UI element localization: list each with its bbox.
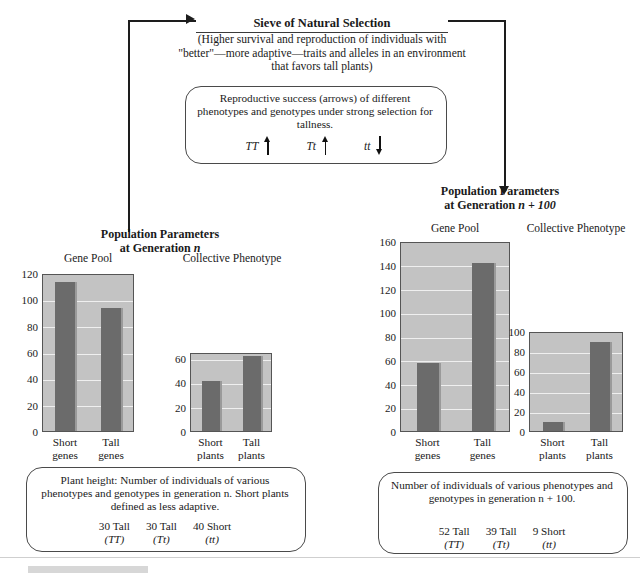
sieve-title: Sieve of Natural Selection [196,16,448,33]
right-panel-title-line2-prefix: at Generation [444,198,518,212]
gridline [401,314,509,315]
y-axis-tick-label: 100 [499,326,525,338]
y-axis-tick-label: 60 [12,347,38,359]
gridline [401,266,509,267]
y-axis-tick-label: 80 [370,331,396,343]
gridline [530,393,622,394]
left-panel-title-line2-prefix: at Generation [120,241,194,255]
gridline [530,353,622,354]
genotype-Tt: Tt [306,136,330,155]
genotype-count-value: 9 Short [533,525,566,538]
y-axis-tick-label: 40 [499,386,525,398]
genotype-tt: tt [364,136,384,155]
left-panel-title: Population Parameters at Generation n [60,228,260,255]
y-axis-tick-label: 100 [370,307,396,319]
y-axis-tick-label: 120 [12,268,38,280]
arrow-down-icon [375,136,384,155]
x-axis-tick-label: Shortplants [529,436,576,461]
y-axis-tick-label: 20 [12,400,38,412]
flow-line-left-vertical [128,20,130,232]
y-axis-tick-label: 20 [499,406,525,418]
genotype-count-genotype: (tt) [193,533,231,546]
bar [590,342,612,431]
y-axis-tick-label: 80 [12,321,38,333]
y-axis-tick-label: 120 [370,284,396,296]
genotype-TT: TT [246,136,273,155]
y-axis-tick-label: 60 [499,366,525,378]
genotype-count-value: 39 Tall [486,525,517,538]
reproductive-success-text: Reproductive success (arrows) of differe… [193,92,437,130]
gridline [43,380,133,381]
genotype-count: 39 Tall(Tt) [486,525,517,550]
left-panel-title-line1: Population Parameters [101,227,219,241]
genotype-count-value: 52 Tall [439,525,470,538]
bar [55,282,77,432]
x-axis-tick-label: Shortgenes [400,436,455,461]
sieve-description: (Higher survival and reproduction of ind… [176,33,468,74]
genotype-count-value: 30 Tall [146,520,177,533]
bar [472,263,496,431]
y-axis-tick-label: 0 [12,426,38,438]
gridline [43,354,133,355]
gridline [530,373,622,374]
genotype-count: 9 Short(tt) [533,525,566,550]
x-axis-tick-label: Tallplants [231,436,272,461]
bar [243,356,263,431]
y-axis-tick-label: 60 [160,353,186,365]
arrow-right-icon [186,14,195,24]
genotype-count-genotype: (Tt) [486,538,517,551]
right-caption-counts: 52 Tall(TT)39 Tall(Tt)9 Short(tt) [388,525,616,550]
genotype-count: 52 Tall(TT) [439,525,470,550]
y-axis-tick-label: 40 [160,377,186,389]
plot-area [190,353,272,432]
genotype-Tt-label: Tt [306,140,316,152]
bar [202,381,222,431]
gridline [43,301,133,302]
y-axis-tick-label: 140 [370,260,396,272]
genotype-count: 30 Tall(Tt) [146,520,177,545]
gridline [43,406,133,407]
left-caption-text: Plant height: Number of individuals of v… [36,474,294,512]
genotype-count-genotype: (tt) [533,538,566,551]
y-axis-tick-label: 20 [370,402,396,414]
x-axis-tick-label: Tallgenes [455,436,510,461]
genotype-count: 30 Tall(TT) [99,520,130,545]
left-caption-counts: 30 Tall(TT)30 Tall(Tt)40 Short(tt) [36,520,294,545]
gridline [43,327,133,328]
plot-area [529,332,623,432]
x-axis-tick-label: Tallgenes [88,436,134,461]
arrow-up-icon [263,136,272,155]
y-axis-tick-label: 0 [160,426,186,438]
y-axis-tick-label: 40 [12,373,38,385]
chart-title: Collective Phenotype [506,222,640,234]
flow-line-right-vertical [504,20,506,188]
y-axis-tick-label: 0 [499,426,525,438]
y-axis-tick-label: 100 [12,294,38,306]
left-panel-title-line2-italic: n [194,241,201,255]
genotype-count: 40 Short(tt) [193,520,231,545]
gridline [401,409,509,410]
y-axis-tick-label: 80 [499,346,525,358]
genotype-count-value: 40 Short [193,520,231,533]
y-axis-tick-label: 60 [370,355,396,367]
right-panel-title: Population Parameters at Generation n + … [400,185,600,212]
gridline [401,338,509,339]
genotype-count-genotype: (TT) [439,538,470,551]
footer-bar [28,566,148,573]
plot-area [400,242,510,432]
bar [101,308,123,432]
gridline [191,360,271,361]
gridline [191,384,271,385]
bar [543,422,565,431]
arrow-up-icon [321,136,330,155]
right-caption-text: Number of individuals of various phenoty… [388,479,616,505]
chart-title: Gene Pool [395,222,515,234]
x-axis-tick-label: Tallplants [576,436,623,461]
x-axis-tick-label: Shortgenes [42,436,88,461]
genotype-TT-label: TT [246,140,259,152]
plot-area [42,274,134,432]
flow-line-right-horizontal [448,20,506,22]
genotype-count-genotype: (Tt) [146,533,177,546]
gridline [530,413,622,414]
genotype-tt-label: tt [364,140,370,152]
